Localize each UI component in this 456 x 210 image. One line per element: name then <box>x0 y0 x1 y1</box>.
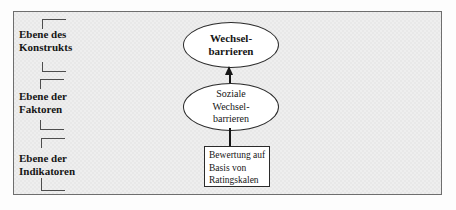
factor-node-ellipse: Soziale Wechsel- barrieren <box>183 83 279 131</box>
indicator-node-label-line: Ratingskalen <box>209 174 267 187</box>
level-label-konstrukt: Ebene des Konstrukts <box>19 28 99 54</box>
construct-node-label-line: barrieren <box>208 45 253 58</box>
level-label-line: Indikatoren <box>19 165 99 178</box>
bracket-top-faktoren <box>40 79 64 89</box>
level-label-line: Konstrukts <box>19 41 99 54</box>
indicator-node-label-line: Basis von <box>209 162 267 175</box>
level-label-faktoren: Ebene der Faktoren <box>19 90 99 116</box>
diagram-frame: Ebene des Konstrukts Ebene der Faktoren … <box>13 11 442 195</box>
bracket-top-indikatoren <box>41 138 65 148</box>
level-label-line: Ebene der <box>19 90 99 103</box>
construct-node-label-line: Wechsel- <box>210 32 252 45</box>
level-label-line: Faktoren <box>19 103 99 116</box>
level-label-indikatoren: Ebene der Indikatoren <box>19 152 99 178</box>
indicator-node-label-line: Bewertung auf <box>209 149 267 162</box>
indicator-node-rect: Bewertung auf Basis von Ratingskalen <box>204 146 270 187</box>
level-label-line: Ebene der <box>19 152 99 165</box>
bracket-bottom-faktoren <box>40 120 64 130</box>
indicator-factor-connector <box>229 128 231 147</box>
bracket-bottom-konstrukt <box>42 62 66 72</box>
factor-node-label-line: barrieren <box>213 113 249 126</box>
level-label-line: Ebene des <box>19 28 99 41</box>
factor-node-label-line: Wechsel- <box>213 101 250 114</box>
construct-node-ellipse: Wechsel- barrieren <box>183 22 279 68</box>
factor-node-label-line: Soziale <box>216 88 245 101</box>
bracket-bottom-indikatoren <box>41 178 65 191</box>
